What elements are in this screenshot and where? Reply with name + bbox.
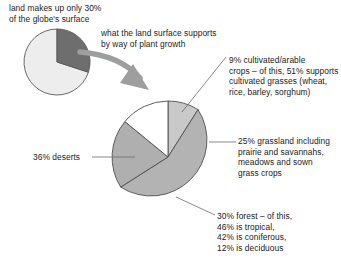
- label-cultivated-crops: 9% cultivated/arable crops – of this, 51…: [229, 55, 341, 97]
- label-deserts: 36% deserts: [33, 152, 111, 163]
- leader-line-cultivated: [182, 57, 226, 112]
- figure-title: land makes up only 30% of the globe's su…: [9, 3, 189, 24]
- land-surface-pie: [112, 101, 207, 196]
- leader-line-forest: [176, 197, 215, 215]
- figure-canvas: land makes up only 30% of the globe's su…: [0, 0, 341, 263]
- arrow-caption: what the land surface supports by way of…: [101, 28, 251, 49]
- globe-surface-pie: [24, 29, 90, 95]
- label-grassland: 25% grassland including prairie and sava…: [238, 136, 341, 178]
- label-forest: 30% forest – of this, 46% is tropical, 4…: [217, 211, 341, 253]
